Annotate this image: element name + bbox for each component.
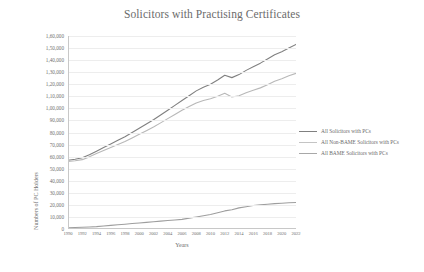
x-tick-label: 1990: [63, 231, 72, 236]
gridline: [69, 133, 296, 134]
x-tick-label: 1992: [78, 231, 87, 236]
y-axis-title-holder: Numbers of PC Holders: [22, 80, 36, 180]
gridline: [69, 120, 296, 121]
gridline: [69, 96, 296, 97]
gridline: [69, 60, 296, 61]
legend-item[interactable]: All Solicitors with PCs: [299, 128, 421, 134]
y-tick-label: 90,000: [50, 117, 64, 123]
x-tick-label: 2018: [263, 231, 272, 236]
gridline: [69, 193, 296, 194]
gridline: [69, 84, 296, 85]
legend-label: All Non-BAME Solicitors with PCs: [321, 139, 399, 145]
x-tick-label: 2008: [192, 231, 201, 236]
gridline: [69, 36, 296, 37]
legend-item[interactable]: All BAME Solicitors with PCs: [299, 150, 421, 156]
gridline: [69, 48, 296, 49]
legend-swatch: [299, 153, 317, 154]
x-tick-label: 2000: [135, 231, 144, 236]
x-tick-label: 1994: [92, 231, 101, 236]
series-line: [68, 44, 296, 160]
y-tick-label: 1,40,000: [46, 57, 64, 63]
y-tick-label: 50,000: [50, 166, 64, 172]
x-tick-label: 2020: [277, 231, 286, 236]
y-tick-label: 1,30,000: [46, 69, 64, 75]
x-tick-label: 2004: [163, 231, 172, 236]
series-line: [68, 202, 296, 227]
gridline: [69, 217, 296, 218]
x-tick-label: 2022: [291, 231, 300, 236]
y-tick-label: 1,20,000: [46, 81, 64, 87]
y-tick-label: 1,00,000: [46, 105, 64, 111]
chart-title: Solicitors with Practising Certificates: [0, 8, 424, 20]
x-tick-label: 1998: [120, 231, 129, 236]
y-tick-label: 10,000: [50, 214, 64, 220]
y-tick-label: 80,000: [50, 130, 64, 136]
gridline: [69, 205, 296, 206]
x-tick-label: 2006: [177, 231, 186, 236]
gridline: [69, 145, 296, 146]
gridline: [69, 181, 296, 182]
legend-swatch: [299, 142, 317, 143]
y-tick-label: 1,50,000: [46, 45, 64, 51]
x-axis-line: [68, 228, 296, 229]
gridline: [69, 169, 296, 170]
legend-label: All BAME Solicitors with PCs: [321, 150, 388, 156]
legend-label: All Solicitors with PCs: [321, 128, 371, 134]
x-tick-label: 2016: [249, 231, 258, 236]
x-axis-title: Years: [68, 242, 296, 248]
y-tick-label: 1,10,000: [46, 93, 64, 99]
y-tick-label: 60,000: [50, 154, 64, 160]
legend-item[interactable]: All Non-BAME Solicitors with PCs: [299, 139, 421, 145]
legend-swatch: [299, 131, 317, 132]
y-tick-label: 1,60,000: [46, 33, 64, 39]
y-axis-title: Numbers of PC Holders: [33, 151, 39, 251]
x-tick-label: 2014: [234, 231, 243, 236]
x-tick-label: 1996: [106, 231, 115, 236]
chart-figure: Solicitors with Practising Certificates …: [0, 0, 424, 272]
x-tick-label: 2012: [220, 231, 229, 236]
gridline: [69, 108, 296, 109]
chart-legend: All Solicitors with PCsAll Non-BAME Soli…: [299, 128, 421, 161]
plot-area: [68, 36, 296, 229]
x-tick-label: 2002: [149, 231, 158, 236]
y-tick-label: 70,000: [50, 142, 64, 148]
y-tick-label: 30,000: [50, 190, 64, 196]
y-tick-label: 20,000: [50, 202, 64, 208]
gridline: [69, 157, 296, 158]
gridline: [69, 72, 296, 73]
y-tick-label: 40,000: [50, 178, 64, 184]
x-tick-label: 2010: [206, 231, 215, 236]
